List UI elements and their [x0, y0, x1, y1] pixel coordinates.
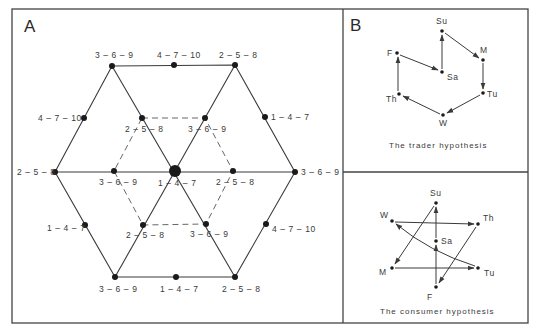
consumer-node-th: Th	[483, 213, 494, 223]
label-vertex-top-left: 3 – 6 – 9	[95, 50, 133, 60]
panel-b: B Su M Tu W Th F Sa The trader hypothesi	[350, 16, 498, 316]
figure-canvas: A 3 – 6 – 9 2 – 5 – 8 3 – 6 – 9 2 – 5 – …	[0, 0, 541, 335]
consumer-node-m: M	[379, 267, 387, 277]
panel-a: A 3 – 6 – 9 2 – 5 – 8 3 – 6 – 9 2 – 5 – …	[17, 17, 339, 294]
arrow-w-th	[395, 222, 474, 224]
trader-caption: The trader hypothesis	[389, 141, 487, 150]
label-inner-upper-left: 2 – 5 – 8	[125, 124, 163, 134]
consumer-node-w: W	[380, 210, 389, 220]
label-vertex-right: 3 – 6 – 9	[301, 167, 339, 177]
consumer-diagram: Su W Th Sa M Tu F The consumer hypothesi…	[379, 188, 495, 316]
arrow-tu-w	[447, 95, 480, 113]
panel-a-letter: A	[24, 17, 36, 36]
label-edge-lower-right: 4 – 7 – 10	[272, 224, 316, 234]
label-edge-upper-right: 1 – 4 – 7	[271, 112, 309, 122]
figure-frame	[12, 9, 528, 323]
consumer-node-su: Su	[430, 188, 442, 198]
trader-node-m: M	[480, 45, 488, 55]
label-edge-bottom: 1 – 4 – 7	[160, 284, 198, 294]
trader-node-sa: Sa	[447, 72, 459, 82]
label-inner-left: 3 – 6 – 9	[99, 177, 137, 187]
consumer-node-tu: Tu	[484, 268, 495, 278]
arrow-su-m	[445, 33, 479, 58]
label-inner-lower-left: 2 – 5 – 8	[126, 230, 164, 240]
consumer-caption: The consumer hypothesis	[380, 307, 495, 316]
label-edge-top: 4 – 7 – 10	[157, 50, 201, 60]
label-vertex-top-right: 2 – 5 – 8	[219, 50, 257, 60]
arrow-w-th	[403, 96, 440, 114]
trader-diagram: Su M Tu W Th F Sa The trader hypothesis	[386, 16, 498, 150]
panel-b-letter: B	[350, 16, 361, 35]
label-center: 1 – 4 – 7	[158, 178, 196, 188]
trader-node-tu: Tu	[487, 89, 498, 99]
trader-node-w: W	[439, 118, 448, 128]
trader-node-su: Su	[436, 16, 448, 26]
label-edge-upper-left: 4 – 7 – 10	[38, 113, 82, 123]
label-inner-upper-right: 3 – 6 – 9	[188, 124, 226, 134]
label-vertex-bottom-right: 2 – 5 – 8	[222, 284, 260, 294]
arrow-f-sa	[400, 55, 438, 70]
label-vertex-bottom-left: 3 – 6 – 9	[99, 284, 137, 294]
center-node	[169, 165, 181, 177]
label-edge-lower-left: 1 – 4 – 7	[47, 223, 85, 233]
trader-node-f: F	[387, 48, 393, 58]
trader-node-th: Th	[386, 94, 397, 104]
label-inner-right: 2 – 5 – 8	[216, 177, 254, 187]
label-inner-lower-right: 3 – 6 – 9	[190, 229, 228, 239]
consumer-node-f: F	[427, 292, 433, 302]
label-vertex-left: 2 – 5 – 8	[17, 167, 55, 177]
arrow-su-m	[395, 206, 434, 264]
consumer-node-sa: Sa	[441, 236, 453, 246]
node-dots	[52, 62, 298, 280]
